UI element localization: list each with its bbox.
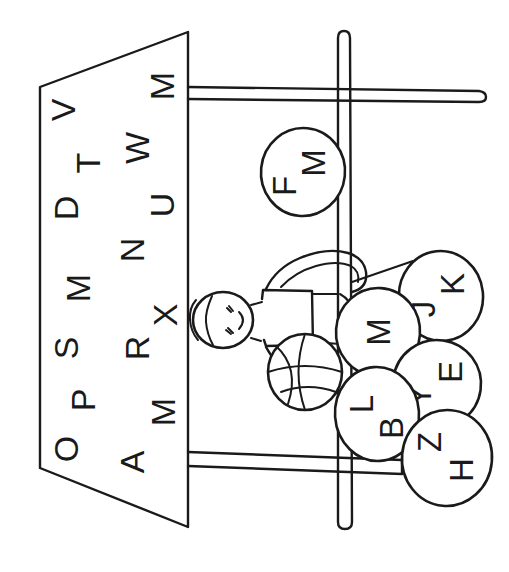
- board-letter-D: D: [47, 196, 85, 221]
- letter-board-inner-column: M W U N X R M A: [113, 72, 184, 474]
- ball-lb-letter-B: B: [373, 417, 410, 439]
- letter-board-outer-column: V T D M S P O: [44, 98, 107, 462]
- board-letter-V: V: [44, 98, 82, 121]
- board-letter-X: X: [146, 304, 184, 327]
- child-arm-upper-inner: [281, 263, 358, 287]
- ball-m-letter-M: M: [360, 318, 397, 346]
- basketball: [268, 334, 342, 410]
- board-letter-N: N: [113, 238, 151, 263]
- board-letter-P: P: [64, 389, 102, 412]
- board-letter-M-2: M: [143, 72, 181, 100]
- coloring-page-canvas: V T D M S P O M W U N X R M A: [0, 0, 509, 572]
- board-letter-R: R: [118, 336, 156, 361]
- ball-fm-letter-M: M: [295, 149, 332, 177]
- board-letter-S: S: [47, 337, 85, 360]
- hoop-pole: [338, 31, 352, 529]
- ball-zh-letter-Z: Z: [411, 432, 448, 452]
- board-letter-M: M: [59, 274, 97, 302]
- board-letter-A: A: [113, 450, 151, 473]
- board-letter-O: O: [47, 436, 85, 462]
- ball-jk-letter-K: K: [434, 273, 471, 295]
- board-letter-W: W: [118, 132, 156, 164]
- line-art-illustration: V T D M S P O M W U N X R M A: [0, 0, 509, 572]
- board-letter-U: U: [143, 193, 181, 218]
- ball-ye-letter-E: E: [432, 361, 469, 383]
- ball-fm-letter-F: F: [266, 176, 303, 196]
- board-letter-T: T: [69, 153, 107, 174]
- ball-fm: F M: [257, 124, 350, 220]
- ball-lb-letter-L: L: [343, 395, 380, 413]
- ball-zh-letter-H: H: [443, 458, 480, 482]
- basketball-outline: [268, 334, 342, 410]
- board-letter-M-3: M: [144, 398, 182, 426]
